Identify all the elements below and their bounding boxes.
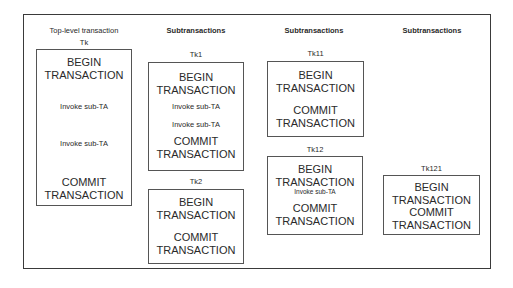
transaction-label-tk: Tk [36, 38, 132, 47]
commit-text: COMMIT [409, 206, 454, 219]
transaction-label-tk12: Tk12 [267, 145, 363, 154]
commit-text: COMMIT [293, 104, 338, 117]
column-header-top-level: Top-level transaction [34, 26, 134, 35]
transaction-box-tk11: BEGIN TRANSACTION COMMIT TRANSACTION [267, 61, 364, 137]
commit-text: COMMIT [174, 231, 219, 244]
transaction-label-tk11: Tk11 [267, 49, 364, 58]
commit-text: TRANSACTION [45, 189, 124, 202]
transaction-box-tk12: BEGIN TRANSACTION Invoke sub-TA COMMIT T… [267, 156, 363, 235]
column-header-subtransactions-1: Subtransactions [146, 26, 246, 35]
begin-text: BEGIN [179, 71, 213, 84]
begin-text: BEGIN [298, 163, 332, 176]
begin-text: BEGIN [179, 196, 213, 209]
transaction-box-tk1: BEGIN TRANSACTION Invoke sub-TA Invoke s… [148, 62, 244, 171]
invoke-subta-text: Invoke sub-TA [294, 188, 335, 196]
commit-text: TRANSACTION [157, 148, 236, 161]
transaction-label-tk121: Tk121 [383, 164, 480, 173]
invoke-subta-text: Invoke sub-TA [60, 139, 108, 148]
transaction-label-tk1: Tk1 [148, 50, 244, 59]
begin-text: TRANSACTION [392, 194, 471, 207]
transaction-label-tk2: Tk2 [148, 177, 244, 186]
begin-text: TRANSACTION [157, 84, 236, 97]
transaction-box-tk: BEGIN TRANSACTION Invoke sub-TA Invoke s… [36, 49, 132, 206]
commit-text: TRANSACTION [276, 215, 355, 228]
column-header-subtransactions-2: Subtransactions [264, 26, 364, 35]
invoke-subta-text: Invoke sub-TA [172, 120, 220, 129]
commit-text: COMMIT [174, 135, 219, 148]
commit-text: TRANSACTION [392, 219, 471, 232]
commit-text: TRANSACTION [276, 117, 355, 130]
begin-text: TRANSACTION [276, 82, 355, 95]
begin-text: TRANSACTION [157, 209, 236, 222]
transaction-box-tk121: BEGIN TRANSACTION COMMIT TRANSACTION [383, 175, 480, 235]
begin-text: BEGIN [414, 181, 448, 194]
transaction-box-tk2: BEGIN TRANSACTION COMMIT TRANSACTION [148, 189, 244, 264]
begin-text: BEGIN [67, 56, 101, 69]
begin-text: TRANSACTION [45, 69, 124, 82]
begin-text: TRANSACTION [276, 176, 355, 189]
invoke-subta-text: Invoke sub-TA [172, 102, 220, 111]
column-header-subtransactions-3: Subtransactions [382, 26, 482, 35]
begin-text: BEGIN [298, 69, 332, 82]
invoke-subta-text: Invoke sub-TA [60, 102, 108, 111]
commit-text: TRANSACTION [157, 244, 236, 257]
commit-text: COMMIT [293, 202, 338, 215]
commit-text: COMMIT [62, 176, 107, 189]
